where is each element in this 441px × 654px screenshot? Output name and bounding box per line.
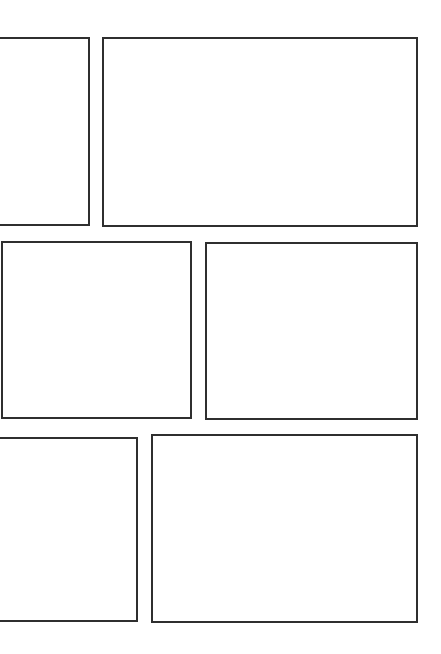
comic-panel[interactable] [102, 37, 418, 227]
comic-page [0, 0, 441, 654]
comic-panel[interactable] [151, 434, 418, 623]
comic-panel-content [104, 39, 416, 225]
comic-panel-content [153, 436, 416, 621]
comic-panel[interactable] [0, 437, 138, 622]
comic-panel-content [0, 439, 136, 620]
comic-panel[interactable] [205, 242, 418, 420]
comic-panel[interactable] [1, 241, 192, 419]
comic-panel-content [3, 243, 190, 417]
comic-panel-content [0, 39, 88, 224]
comic-panel[interactable] [0, 37, 90, 226]
comic-panel-content [207, 244, 416, 418]
